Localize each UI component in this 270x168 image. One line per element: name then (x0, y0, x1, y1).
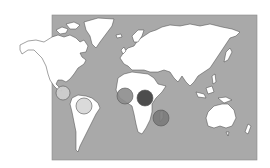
iceland (116, 34, 122, 38)
world-map (0, 0, 270, 168)
west-africa-marker (117, 88, 133, 104)
central-africa-marker (137, 90, 153, 106)
central-america-marker (56, 86, 70, 100)
philippines (212, 74, 216, 84)
madagascar-marker (153, 110, 169, 126)
south-america-marker (76, 98, 92, 114)
